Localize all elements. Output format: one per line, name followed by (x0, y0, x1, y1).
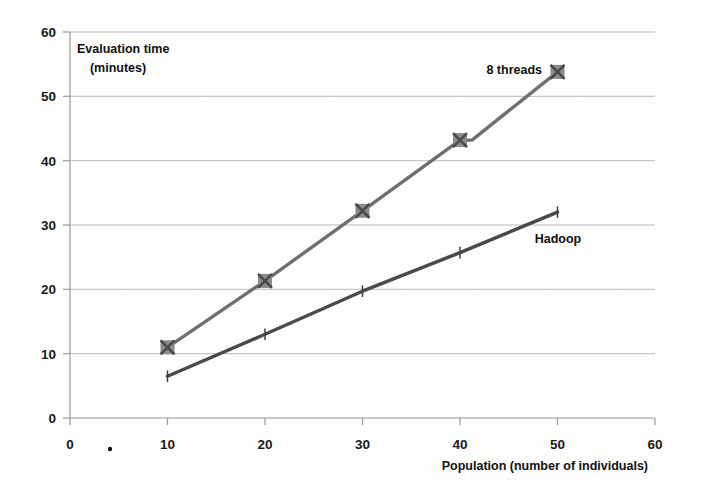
scan-speck-artifact (108, 447, 112, 451)
series-label-hadoop: Hadoop (535, 232, 582, 246)
x-tick-label-40: 40 (452, 437, 467, 452)
x-tick-label-10: 10 (160, 437, 175, 452)
line-chart-canvas: 60 50 40 30 20 10 0 0 10 20 30 40 50 60 … (0, 0, 711, 491)
marker-8threads-30 (356, 204, 370, 218)
marker-8threads-20 (258, 274, 272, 288)
x-tick-label-30: 30 (355, 437, 370, 452)
y-tick-label-0: 0 (48, 411, 56, 426)
y-tick-label-20: 20 (41, 282, 56, 297)
x-tick-label-20: 20 (257, 437, 272, 452)
y-tick-label-10: 10 (41, 347, 56, 362)
marker-8threads-40 (453, 133, 467, 147)
series-label-8-threads: 8 threads (486, 63, 542, 77)
x-tick-label-60: 60 (647, 437, 662, 452)
y-tick-label-30: 30 (41, 218, 56, 233)
x-axis-title: Population (number of individuals) (442, 459, 648, 473)
x-tick-label-0: 0 (66, 437, 74, 452)
y-axis-ticks (63, 32, 70, 418)
y-axis-title-line2: (minutes) (90, 61, 146, 75)
marker-8threads-50 (551, 65, 565, 79)
marker-8threads-10 (161, 340, 175, 354)
y-tick-label-60: 60 (41, 25, 56, 40)
chart-figure: 60 50 40 30 20 10 0 0 10 20 30 40 50 60 … (0, 0, 711, 491)
y-axis-title-line1: Evaluation time (77, 42, 169, 56)
x-axis-ticks (70, 418, 655, 425)
y-tick-label-40: 40 (41, 154, 56, 169)
y-tick-label-50: 50 (41, 89, 56, 104)
x-tick-label-50: 50 (550, 437, 565, 452)
